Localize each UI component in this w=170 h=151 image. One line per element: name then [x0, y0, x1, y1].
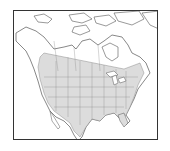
arctic-islands	[34, 11, 158, 35]
north-america-map	[14, 11, 158, 140]
range-map	[13, 10, 158, 140]
